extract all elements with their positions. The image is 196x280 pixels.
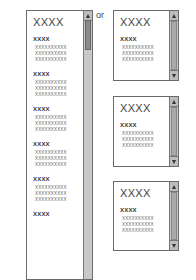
scroll-up-button[interactable] bbox=[170, 11, 178, 21]
panel-section: XXXX bbox=[33, 210, 80, 218]
arrow-up-icon bbox=[172, 100, 176, 104]
section-heading: XXXX bbox=[33, 210, 80, 218]
section-line: XXXXXXXXXX bbox=[120, 228, 166, 234]
panel-section: XXXX XXXXXXXXXX XXXXXXXXXX XXXXXXXXXX bbox=[33, 105, 80, 133]
panel-section: XXXX XXXXXXXXXX XXXXXXXXXX XXXXXXXXXX bbox=[33, 175, 80, 203]
section-line: XXXXXXXXXX bbox=[33, 127, 80, 133]
scroll-down-button[interactable] bbox=[170, 240, 178, 250]
small-scroll-panel: XXXX XXXX XXXXXXXXXX XXXXXXXXXX XXXXXXXX… bbox=[113, 96, 179, 167]
tall-scroll-panel: XXXX XXXX XXXXXXXXXX XXXXXXXXXX XXXXXXXX… bbox=[26, 10, 93, 280]
arrow-up-icon bbox=[86, 14, 90, 18]
arrow-down-icon bbox=[172, 160, 176, 164]
scroll-up-button[interactable] bbox=[170, 97, 178, 107]
vertical-scrollbar[interactable] bbox=[169, 182, 178, 250]
arrow-up-icon bbox=[172, 185, 176, 189]
section-heading: XXXX bbox=[120, 206, 166, 214]
small-scroll-panel: XXXX XXXX XXXXXXXXXX XXXXXXXXXX XXXXXXXX… bbox=[113, 10, 179, 81]
section-line: XXXXXXXXXX bbox=[33, 162, 80, 168]
panel-title: XXXX bbox=[120, 16, 166, 29]
vertical-scrollbar[interactable] bbox=[169, 11, 178, 80]
panel-title: XXXX bbox=[120, 102, 166, 115]
small-panel-content: XXXX XXXX XXXXXXXXXX XXXXXXXXXX XXXXXXXX… bbox=[120, 16, 166, 63]
section-line: XXXXXXXXXX bbox=[120, 143, 166, 149]
panel-title: XXXX bbox=[120, 187, 166, 200]
small-panel-content: XXXX XXXX XXXXXXXXXX XXXXXXXXXX XXXXXXXX… bbox=[120, 187, 166, 234]
scroll-up-button[interactable] bbox=[170, 182, 178, 192]
scrollbar-thumb[interactable] bbox=[85, 20, 91, 50]
panel-section: XXXX XXXXXXXXXX XXXXXXXXXX XXXXXXXXXX bbox=[33, 140, 80, 168]
arrow-down-icon bbox=[172, 244, 176, 248]
arrow-up-icon bbox=[172, 14, 176, 18]
section-heading: XXXX bbox=[120, 121, 166, 129]
section-heading: XXXX bbox=[33, 140, 80, 148]
arrow-down-icon bbox=[172, 74, 176, 78]
small-panel-content: XXXX XXXX XXXXXXXXXX XXXXXXXXXX XXXXXXXX… bbox=[120, 102, 166, 149]
section-line: XXXXXXXXXX bbox=[33, 92, 80, 98]
scroll-down-button[interactable] bbox=[170, 70, 178, 80]
section-heading: XXXX bbox=[33, 70, 80, 78]
section-heading: XXXX bbox=[33, 105, 80, 113]
section-line: XXXXXXXXXX bbox=[33, 197, 80, 203]
panel-section: XXXX XXXXXXXXXX XXXXXXXXXX XXXXXXXXXX bbox=[33, 35, 80, 63]
scroll-down-button[interactable] bbox=[170, 156, 178, 166]
panel-section: XXXX XXXXXXXXXX XXXXXXXXXX XXXXXXXXXX bbox=[33, 70, 80, 98]
section-heading: XXXX bbox=[33, 35, 80, 43]
vertical-scrollbar[interactable] bbox=[169, 97, 178, 166]
scrollbar-thumb[interactable] bbox=[171, 192, 177, 240]
tall-panel-content: XXXX XXXX XXXXXXXXXX XXXXXXXXXX XXXXXXXX… bbox=[33, 16, 80, 225]
section-line: XXXXXXXXXX bbox=[120, 57, 166, 63]
section-heading: XXXX bbox=[120, 35, 166, 43]
section-line: XXXXXXXXXX bbox=[33, 57, 80, 63]
or-separator: or bbox=[96, 10, 104, 20]
scrollbar-thumb[interactable] bbox=[171, 21, 177, 70]
vertical-scrollbar[interactable] bbox=[83, 11, 92, 279]
scrollbar-thumb[interactable] bbox=[171, 107, 177, 156]
panel-title: XXXX bbox=[33, 16, 80, 29]
small-scroll-panel: XXXX XXXX XXXXXXXXXX XXXXXXXXXX XXXXXXXX… bbox=[113, 181, 179, 251]
section-heading: XXXX bbox=[33, 175, 80, 183]
